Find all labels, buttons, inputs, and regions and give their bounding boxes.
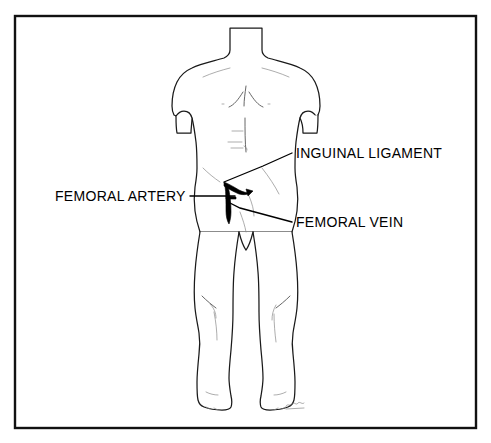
label-femoral-artery: FEMORAL ARTERY — [55, 188, 186, 204]
left-arm-stump — [176, 116, 192, 133]
diagram-canvas: INGUINAL LIGAMENT FEMORAL ARTERY FEMORAL… — [0, 0, 491, 443]
anatomical-figure: INGUINAL LIGAMENT FEMORAL ARTERY FEMORAL… — [0, 0, 491, 443]
label-inguinal-ligament: INGUINAL LIGAMENT — [296, 145, 442, 161]
right-arm-stump — [300, 115, 318, 133]
label-femoral-vein: FEMORAL VEIN — [296, 214, 403, 230]
